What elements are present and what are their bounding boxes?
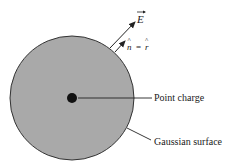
point-charge-label: Point charge bbox=[154, 92, 205, 103]
normal-vector-arrow bbox=[115, 41, 125, 52]
gaussian-surface-leader-line bbox=[127, 128, 151, 140]
equals-sign: = bbox=[136, 42, 141, 52]
electric-field-label: E bbox=[136, 11, 146, 26]
point-charge-dot bbox=[67, 93, 77, 103]
electric-field-symbol: E bbox=[136, 13, 144, 25]
gaussian-surface-diagram: E n ^ = r ^ Point charge Gaussian surfac… bbox=[0, 0, 238, 167]
vector-arrowhead-icon bbox=[143, 11, 146, 14]
gaussian-surface-label: Gaussian surface bbox=[154, 136, 223, 147]
normal-equals-radial-label: n ^ = r ^ bbox=[127, 36, 149, 52]
